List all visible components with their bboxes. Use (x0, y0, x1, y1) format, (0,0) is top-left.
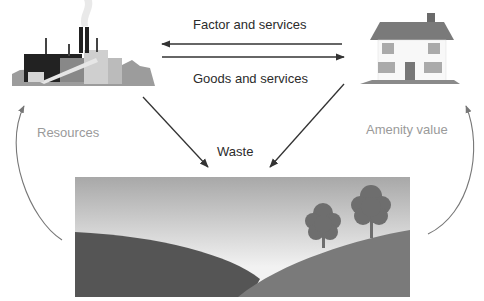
factory-icon (12, 0, 155, 86)
resources-label: Resources (37, 125, 99, 140)
goods-services-label: Goods and services (193, 71, 308, 86)
factor-services-label: Factor and services (193, 17, 306, 32)
waste-arrow-from-firms (143, 97, 208, 167)
waste-arrow-from-households (270, 84, 344, 167)
waste-label: Waste (217, 144, 253, 159)
house-icon (360, 13, 460, 84)
landscape-icon (75, 177, 410, 297)
amenity-value-label: Amenity value (366, 122, 448, 137)
